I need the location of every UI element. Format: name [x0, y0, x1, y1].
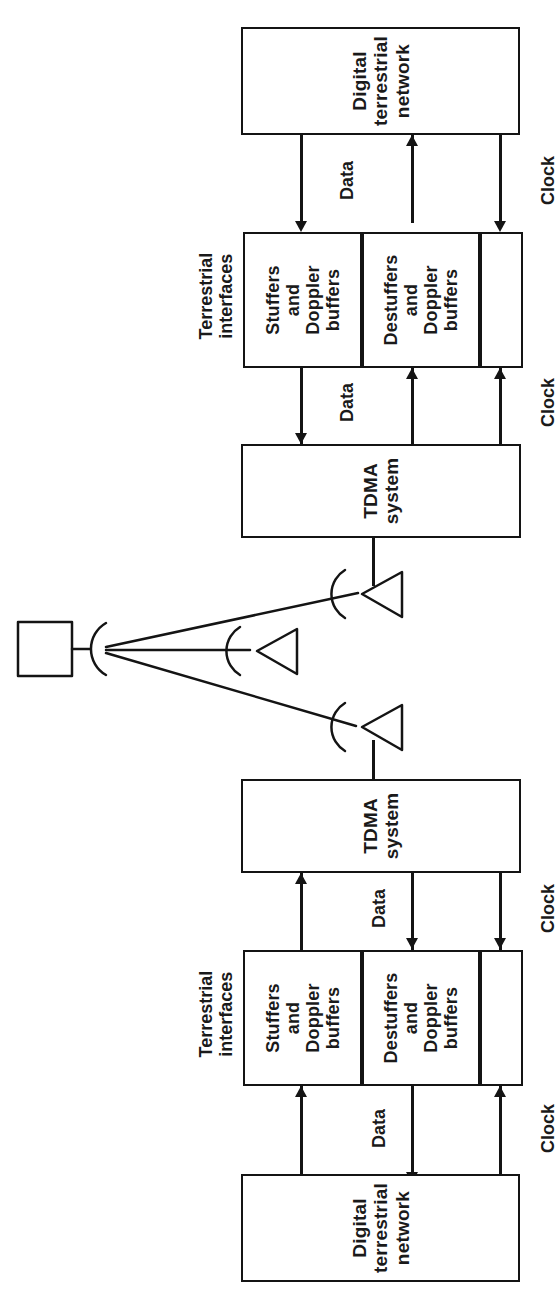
station-b-clock-section-box: [480, 950, 523, 1086]
station-b-data-return-line: [300, 873, 303, 950]
station-a-clock-line-net-to-iface: [499, 135, 502, 223]
station-b-data-line-iface-to-net: [411, 1086, 414, 1174]
station-a-data-arrow-iface-to-tdma: [295, 433, 307, 444]
station-a-stuffers-label: Stuffers and Doppler buffers: [262, 265, 343, 335]
station-b-destuffers-doppler-buffers-box: Destuffers and Doppler buffers: [362, 950, 480, 1086]
station-a-clock-label-net-to-iface: Clock: [538, 156, 559, 205]
station-b-antenna-to-tdma-line: [372, 740, 375, 779]
station-a-clock-line-iface-to-tdma: [499, 368, 502, 445]
station-a-data-label-iface-to-tdma: Data: [337, 383, 358, 422]
station-b-terrestrial-interfaces-label: Terrestrial interfaces: [196, 949, 236, 1079]
station-b-tdma-label: TDMA system: [360, 793, 403, 860]
station-a-terrestrial-interfaces-label: Terrestrial interfaces: [196, 231, 236, 361]
station-b-network-label: Digital terrestrial network: [349, 1183, 413, 1273]
station-b-data-label-tdma-to-iface: Data: [369, 889, 390, 928]
antenna-a-dish-arc: [331, 570, 345, 618]
station-b-data-return-arrow: [295, 873, 307, 884]
station-a-data-label-net-to-iface: Data: [337, 161, 358, 200]
antenna-a-horn: [362, 572, 402, 617]
beam-to-antenna-a: [106, 593, 358, 647]
station-a-data-return-arrow: [406, 368, 418, 379]
satellite-dish-arc: [91, 623, 106, 675]
station-a-net-return-line: [411, 135, 414, 223]
station-b-clock-arrow-iface-to-net: [494, 1086, 506, 1097]
station-b-data-arrow-tdma-to-iface: [406, 938, 418, 949]
station-b-tdma-system-box: TDMA system: [241, 779, 521, 873]
antenna-b-dish-arc: [331, 703, 345, 751]
station-b-clock-label-iface-to-net: Clock: [538, 1104, 559, 1153]
station-a-data-arrow-net-to-iface: [295, 221, 307, 232]
station-b-clock-label-tdma-to-iface: Clock: [538, 884, 559, 933]
station-b-destuffers-label: Destuffers and Doppler buffers: [381, 972, 462, 1063]
station-a-destuffers-doppler-buffers-box: Destuffers and Doppler buffers: [362, 232, 480, 368]
antenna-middle-horn: [257, 629, 297, 674]
station-b-digital-terrestrial-network-box: Digital terrestrial network: [241, 1174, 520, 1282]
station-b-stuffers-doppler-buffers-box: Stuffers and Doppler buffers: [243, 950, 362, 1086]
station-a-digital-terrestrial-network-box: Digital terrestrial network: [241, 27, 520, 135]
station-a-tdma-label: TDMA system: [360, 458, 403, 525]
station-a-stuffers-doppler-buffers-box: Stuffers and Doppler buffers: [243, 232, 362, 368]
station-b-clock-arrow-tdma-to-iface: [494, 938, 506, 949]
antenna-b-horn: [362, 705, 402, 750]
beam-to-antenna-b: [106, 653, 356, 726]
station-a-destuffers-label: Destuffers and Doppler buffers: [381, 254, 462, 345]
station-a-network-label: Digital terrestrial network: [349, 36, 413, 126]
station-b-data-label-iface-to-net: Data: [369, 1109, 390, 1148]
station-a-net-return-arrow: [406, 135, 418, 146]
antenna-middle-dish-arc: [226, 627, 240, 675]
station-b-clock-line-iface-to-net: [499, 1086, 502, 1174]
station-b-stuffers-label: Stuffers and Doppler buffers: [262, 983, 343, 1053]
station-a-clock-arrow-iface-to-tdma: [494, 368, 506, 379]
station-a-clock-label-iface-to-tdma: Clock: [538, 378, 559, 427]
station-b-net-return-line: [300, 1086, 303, 1174]
satellite-body: [18, 622, 72, 676]
station-a-tdma-to-antenna-line: [372, 538, 375, 586]
station-a-data-return-line: [411, 368, 414, 445]
station-b-net-return-arrow: [295, 1086, 307, 1097]
station-a-clock-section-box: [480, 232, 523, 368]
station-a-tdma-system-box: TDMA system: [241, 444, 521, 538]
station-a-data-line-net-to-iface: [300, 135, 303, 223]
station-a-clock-arrow-net-to-iface: [494, 221, 506, 232]
